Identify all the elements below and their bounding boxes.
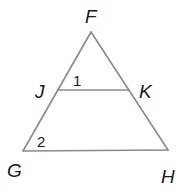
- vertex-label-j: J: [34, 81, 45, 102]
- triangle-diagram: F J K G H 1 2: [0, 0, 176, 196]
- vertex-label-h: H: [161, 166, 175, 187]
- vertex-label-k: K: [139, 81, 153, 102]
- vertex-label-f: F: [85, 6, 98, 27]
- side-gh: [23, 150, 168, 151]
- vertex-label-g: G: [7, 160, 22, 181]
- angle-label-1: 1: [73, 72, 81, 89]
- side-fg: [23, 32, 91, 151]
- angle-label-2: 2: [37, 133, 45, 150]
- side-fh: [91, 32, 168, 150]
